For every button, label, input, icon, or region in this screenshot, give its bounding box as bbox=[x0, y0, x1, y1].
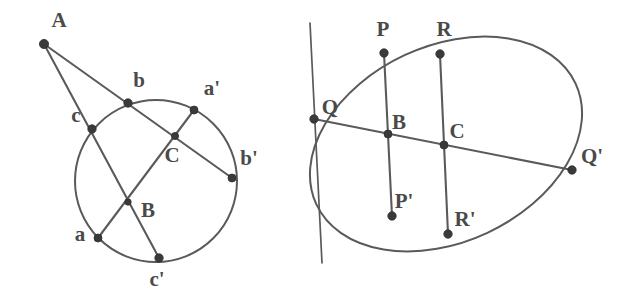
point-marker-b bbox=[124, 99, 132, 107]
point-label-C: C bbox=[449, 119, 464, 143]
point-marker-b-prime bbox=[228, 174, 236, 182]
point-marker-a bbox=[94, 234, 102, 242]
point-label-Q: Q bbox=[322, 95, 338, 119]
point-label-b-prime: b' bbox=[240, 146, 258, 170]
point-label-P-prime: P' bbox=[395, 189, 414, 213]
point-marker-c-prime bbox=[155, 254, 163, 262]
point-label-B: B bbox=[392, 110, 406, 134]
point-label-a-prime: a' bbox=[204, 76, 220, 100]
tangent-line bbox=[310, 23, 322, 263]
point-marker-B bbox=[125, 199, 131, 205]
left-figure-group: Abca'Cb'Bac' bbox=[39, 8, 257, 291]
geometry-canvas: Abca'Cb'Bac' PRQBCQ'P'R' bbox=[0, 0, 622, 296]
point-marker-B bbox=[384, 130, 392, 138]
point-marker-a-prime bbox=[190, 106, 198, 114]
point-marker-c bbox=[88, 125, 96, 133]
point-marker-Q-prime bbox=[568, 166, 576, 174]
geometry-figure-container: Abca'Cb'Bac' PRQBCQ'P'R' bbox=[0, 0, 622, 296]
point-marker-P bbox=[380, 49, 388, 57]
point-label-C: C bbox=[164, 143, 179, 167]
left-figure-points: Abca'Cb'Bac' bbox=[39, 8, 257, 291]
point-marker-R-prime bbox=[444, 230, 452, 238]
point-label-c-prime: c' bbox=[149, 267, 164, 291]
point-label-a: a bbox=[75, 222, 86, 246]
point-marker-R bbox=[436, 50, 444, 58]
point-label-P: P bbox=[377, 17, 390, 41]
point-label-c: c bbox=[71, 103, 80, 127]
point-label-B: B bbox=[141, 198, 155, 222]
point-marker-A bbox=[39, 39, 48, 48]
point-marker-C bbox=[171, 132, 178, 139]
point-label-R-prime: R' bbox=[455, 207, 476, 231]
right-figure-group: PRQBCQ'P'R' bbox=[275, 0, 617, 293]
point-marker-P-prime bbox=[388, 212, 396, 220]
point-marker-Q bbox=[310, 115, 318, 123]
point-marker-C bbox=[440, 141, 448, 149]
point-label-R: R bbox=[436, 17, 452, 41]
point-label-A: A bbox=[51, 8, 67, 32]
point-label-Q-prime: Q' bbox=[581, 144, 603, 168]
point-label-b: b bbox=[133, 68, 145, 92]
